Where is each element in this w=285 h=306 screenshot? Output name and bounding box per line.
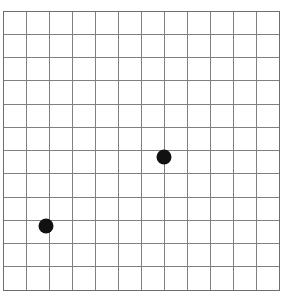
lower-left-point-marker [39, 219, 54, 234]
upper-right-point-marker [157, 150, 172, 165]
grid-canvas [0, 0, 285, 306]
grid-figure [0, 0, 285, 306]
figure-background [0, 0, 285, 306]
